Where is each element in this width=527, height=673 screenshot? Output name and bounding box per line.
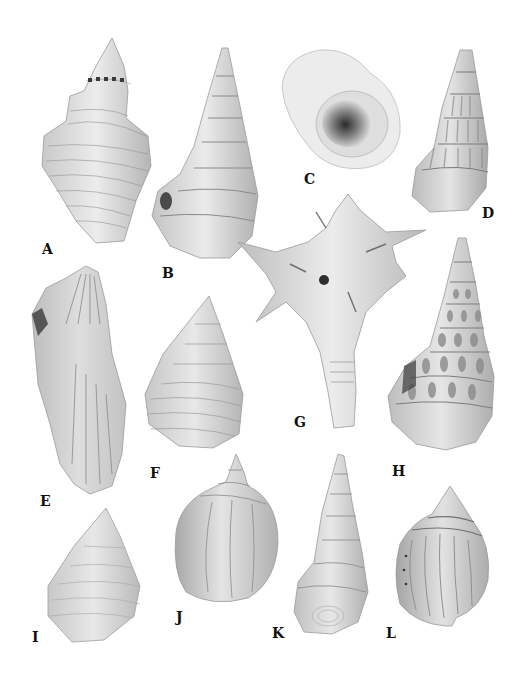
label-h: H [392,464,405,478]
specimen-f [143,294,247,450]
label-g: G [294,415,306,429]
specimen-i [44,506,144,646]
specimen-e [26,264,128,496]
label-a: A [42,242,53,256]
specimen-k [292,452,370,636]
shell-f-image [143,294,247,450]
shell-k-image [292,452,370,636]
label-c: C [304,172,315,186]
label-j: J [176,610,183,624]
shell-l-image [392,484,492,626]
label-b: B [162,266,174,280]
specimen-d [410,48,492,214]
label-l: L [386,626,396,640]
label-k: K [272,626,284,640]
specimen-h [386,236,498,452]
shell-a-image [36,36,156,246]
specimen-plate: A B C [0,0,527,673]
specimen-l [392,484,492,626]
label-i: I [32,630,39,644]
specimen-a [36,36,156,246]
shell-d-image [410,48,492,214]
specimen-c [280,48,404,172]
shell-j-image [172,452,280,606]
shell-i-image [44,506,144,646]
label-d: D [482,206,494,220]
shell-e-image [26,264,128,496]
label-f: F [150,466,160,480]
shell-c-image [280,48,404,172]
shell-h-image [386,236,498,452]
specimen-j [172,452,280,606]
